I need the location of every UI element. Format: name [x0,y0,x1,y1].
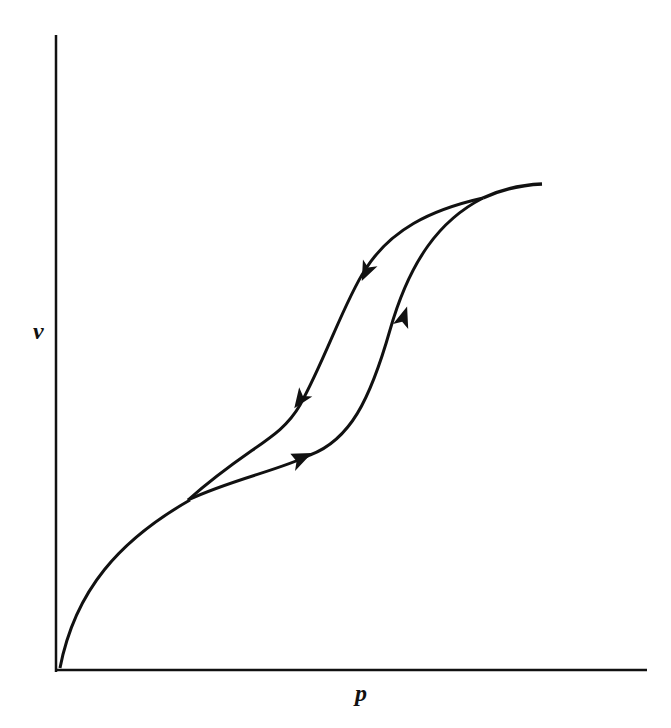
loading-branch [188,198,483,500]
initial-loading-curve [60,500,190,668]
y-axis-label: v [33,318,44,345]
unloading-branch [188,198,483,500]
arrow-right-icon [290,448,315,471]
upper-extension [483,184,542,198]
hysteresis-diagram [0,0,671,728]
x-axis-label: p [355,680,367,707]
